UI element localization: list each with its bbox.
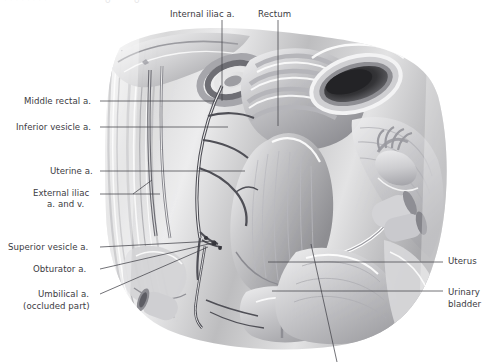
label-uterus: Uterus <box>448 256 477 267</box>
caption-fragment-mid-a: o <box>105 0 111 5</box>
label-inferior-vesicle-artery: Inferior vesicle a. <box>16 122 91 133</box>
label-urinary-bladder-line2: bladder <box>448 299 481 310</box>
label-obturator-artery: Obturator a. <box>33 264 86 275</box>
label-superior-vesicle-artery: Superior vesicle a. <box>8 242 88 253</box>
label-external-iliac-vessels-line1: External iliac <box>33 188 89 199</box>
label-middle-rectal-artery: Middle rectal a. <box>24 96 91 107</box>
caption-fragment-mid-b: o <box>134 0 140 5</box>
label-uterine-artery: Uterine a. <box>50 166 93 177</box>
label-rectum: Rectum <box>258 9 291 20</box>
label-internal-iliac-artery: Internal iliac a. <box>170 9 235 20</box>
label-umbilical-artery-line2: (occluded part) <box>23 301 90 312</box>
label-urinary-bladder-line1: Urinary <box>448 287 480 298</box>
cut-off-caption-strip: · · · · · · · · o o <box>0 0 493 7</box>
label-umbilical-artery-line1: Umbilical a. <box>38 289 89 300</box>
label-external-iliac-vessels-line2: a. and v. <box>47 199 84 210</box>
anatomy-figure: · · · · · · · · o o Internal iliac a. Re… <box>0 0 493 362</box>
caption-fragment-left: · · · · · · · · <box>4 0 47 5</box>
